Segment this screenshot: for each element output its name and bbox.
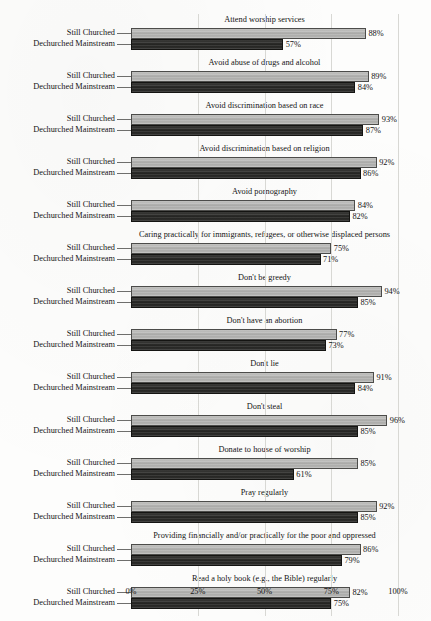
bar-row: 57% bbox=[131, 39, 398, 50]
axis-tick-mark bbox=[117, 474, 131, 475]
bar bbox=[131, 125, 363, 136]
bar bbox=[131, 544, 361, 555]
axis-tick-mark bbox=[117, 33, 131, 34]
bar bbox=[131, 168, 361, 179]
bar-value-label: 73% bbox=[326, 340, 344, 352]
series-label: Dechurched Mainstream bbox=[33, 339, 115, 351]
bar bbox=[131, 157, 377, 168]
chart-panel: Avoid discrimination based on raceStill … bbox=[0, 100, 431, 143]
chart-panel: Caring practically for immigrants, refug… bbox=[0, 229, 431, 272]
bar-value-label: 84% bbox=[355, 82, 373, 94]
bar bbox=[131, 458, 358, 469]
gridline bbox=[398, 14, 399, 57]
bar-value-label: 92% bbox=[377, 501, 395, 513]
axis-tick-mark bbox=[117, 377, 131, 378]
series-axis-labels: Still ChurchedDechurched Mainstream bbox=[0, 70, 131, 96]
panel-plot-area: 85%61% bbox=[131, 457, 398, 483]
gridline bbox=[398, 487, 399, 530]
gridline bbox=[398, 100, 399, 143]
series-axis-labels: Still ChurchedDechurched Mainstream bbox=[0, 543, 131, 569]
axis-tick-mark bbox=[117, 334, 131, 335]
panel-plot-area: 96%85% bbox=[131, 414, 398, 440]
chart-panel: Attend worship servicesStill ChurchedDec… bbox=[0, 14, 431, 57]
series-axis-labels: Still ChurchedDechurched Mainstream bbox=[0, 242, 131, 268]
bar-row: 85% bbox=[131, 297, 398, 308]
axis-tick-mark bbox=[117, 119, 131, 120]
bar-value-label: 85% bbox=[358, 297, 376, 309]
bar-row: 75% bbox=[131, 243, 398, 254]
panel-plot-area: 92%86% bbox=[131, 156, 398, 182]
gridline bbox=[398, 229, 399, 272]
bar-row: 92% bbox=[131, 157, 398, 168]
series-axis-labels: Still ChurchedDechurched Mainstream bbox=[0, 414, 131, 440]
x-tick-label: 0% bbox=[111, 586, 151, 598]
axis-tick-mark bbox=[117, 44, 131, 45]
panel-plot-area: 88%57% bbox=[131, 27, 398, 53]
bar bbox=[131, 340, 326, 351]
chart-panel: Donate to house of worshipStill Churched… bbox=[0, 444, 431, 487]
chart-panel: Providing financially and/or practically… bbox=[0, 530, 431, 573]
axis-tick-mark bbox=[117, 506, 131, 507]
series-label: Dechurched Mainstream bbox=[33, 511, 115, 523]
series-axis-labels: Still ChurchedDechurched Mainstream bbox=[0, 113, 131, 139]
bar bbox=[131, 415, 387, 426]
bar-row: 96% bbox=[131, 415, 398, 426]
bar-value-label: 71% bbox=[321, 254, 339, 266]
axis-tick-mark bbox=[117, 549, 131, 550]
series-axis-labels: Still ChurchedDechurched Mainstream bbox=[0, 27, 131, 53]
bar-value-label: 85% bbox=[358, 426, 376, 438]
x-tick-label: 75% bbox=[311, 586, 351, 598]
bar-value-label: 86% bbox=[361, 168, 379, 180]
bar bbox=[131, 39, 283, 50]
bar-row: 73% bbox=[131, 340, 398, 351]
bar-row: 84% bbox=[131, 383, 398, 394]
gridline bbox=[398, 186, 399, 229]
series-label: Dechurched Mainstream bbox=[33, 38, 115, 50]
bar-row: 84% bbox=[131, 200, 398, 211]
bar bbox=[131, 383, 355, 394]
series-label: Dechurched Mainstream bbox=[33, 124, 115, 136]
chart-panel: Don't stealStill ChurchedDechurched Main… bbox=[0, 401, 431, 444]
bar bbox=[131, 200, 355, 211]
series-label: Dechurched Mainstream bbox=[33, 382, 115, 394]
chart-panel: Don't lieStill ChurchedDechurched Mainst… bbox=[0, 358, 431, 401]
x-tick-label: 100% bbox=[378, 586, 418, 598]
bar-row: 89% bbox=[131, 71, 398, 82]
bar bbox=[131, 297, 358, 308]
faceted-bar-chart: Attend worship servicesStill ChurchedDec… bbox=[0, 0, 431, 621]
x-axis: 0%25%50%75%100% bbox=[0, 586, 431, 602]
panel-plot-area: 94%85% bbox=[131, 285, 398, 311]
gridline bbox=[398, 530, 399, 573]
panel-plot-area: 93%87% bbox=[131, 113, 398, 139]
axis-tick-mark bbox=[117, 420, 131, 421]
axis-tick-mark bbox=[117, 345, 131, 346]
bar-row: 93% bbox=[131, 114, 398, 125]
page: Attend worship servicesStill ChurchedDec… bbox=[0, 0, 431, 621]
axis-tick-mark bbox=[117, 302, 131, 303]
bar-row: 71% bbox=[131, 254, 398, 265]
bar-value-label: 93% bbox=[379, 114, 397, 126]
bar-row: 86% bbox=[131, 544, 398, 555]
axis-tick-mark bbox=[117, 517, 131, 518]
bar-value-label: 92% bbox=[377, 157, 395, 169]
axis-tick-mark bbox=[117, 205, 131, 206]
bar-row: 79% bbox=[131, 555, 398, 566]
bar-row: 85% bbox=[131, 458, 398, 469]
bar bbox=[131, 329, 337, 340]
bar-row: 87% bbox=[131, 125, 398, 136]
gridline bbox=[398, 444, 399, 487]
bar-value-label: 61% bbox=[294, 469, 312, 481]
bar-value-label: 91% bbox=[374, 372, 392, 384]
series-label: Dechurched Mainstream bbox=[33, 210, 115, 222]
bar-value-label: 87% bbox=[363, 125, 381, 137]
bar bbox=[131, 555, 342, 566]
panel-plot-area: 77%73% bbox=[131, 328, 398, 354]
series-label: Dechurched Mainstream bbox=[33, 167, 115, 179]
bar bbox=[131, 286, 382, 297]
series-label: Dechurched Mainstream bbox=[33, 253, 115, 265]
bar-value-label: 96% bbox=[387, 415, 405, 427]
series-label: Dechurched Mainstream bbox=[33, 468, 115, 480]
axis-tick-mark bbox=[117, 291, 131, 292]
bar bbox=[131, 512, 358, 523]
bar-row: 85% bbox=[131, 426, 398, 437]
